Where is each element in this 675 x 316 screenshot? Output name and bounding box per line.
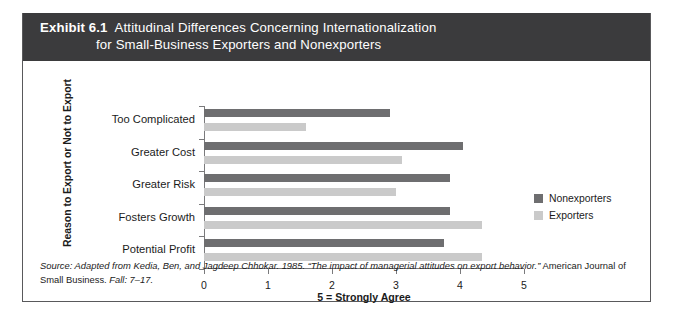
y-axis-title: Reason to Export or Not to Export <box>62 97 73 247</box>
y-axis-tick <box>199 204 204 205</box>
y-axis-tick <box>199 236 204 237</box>
exhibit-title-line-2: for Small-Business Exporters and Nonexpo… <box>40 37 650 54</box>
y-axis-tick <box>199 139 204 140</box>
bar-nonexporters <box>204 239 444 247</box>
plot-region: 0 1 2 3 4 5 Too Complicated Greater Cost… <box>204 106 524 269</box>
legend-item-nonexporters: Nonexporters <box>534 190 611 207</box>
legend-item-exporters: Exporters <box>534 207 611 224</box>
category-label: Greater Risk <box>75 178 195 190</box>
bar-exporters <box>204 221 482 229</box>
y-axis-tick <box>199 106 204 107</box>
exhibit-header: Exhibit 6.1Attitudinal Differences Conce… <box>23 13 650 61</box>
category-label: Too Complicated <box>75 113 195 125</box>
legend-swatch-icon <box>534 211 543 220</box>
bar-exporters <box>204 188 396 196</box>
source-note-italic: Source: Adapted from Kedia, Ben, and Jag… <box>40 260 540 271</box>
exhibit-title-line-1: Attitudinal Differences Concerning Inter… <box>115 20 437 35</box>
category-label: Potential Profit <box>75 243 195 255</box>
source-note: Source: Adapted from Kedia, Ben, and Jag… <box>40 259 640 287</box>
chart-legend: Nonexporters Exporters <box>534 190 611 224</box>
x-axis-title: 5 = Strongly Agree <box>204 291 524 303</box>
y-axis-tick <box>199 171 204 172</box>
chart-area: Reason to Export or Not to Export 0 1 2 … <box>23 61 650 257</box>
exhibit-panel: Exhibit 6.1Attitudinal Differences Conce… <box>22 13 651 302</box>
bar-nonexporters <box>204 142 463 150</box>
legend-label: Nonexporters <box>549 193 611 204</box>
exhibit-number: Exhibit 6.1 <box>40 20 108 35</box>
legend-swatch-icon <box>534 194 543 203</box>
bar-nonexporters <box>204 207 450 215</box>
exhibit-header-line-1: Exhibit 6.1Attitudinal Differences Conce… <box>40 20 650 37</box>
bar-nonexporters <box>204 109 390 117</box>
bar-exporters <box>204 123 306 131</box>
bar-nonexporters <box>204 174 450 182</box>
source-note-italic-tail: Fall: 7–17. <box>107 274 153 285</box>
category-label: Greater Cost <box>75 146 195 158</box>
category-label: Fosters Growth <box>75 211 195 223</box>
bar-exporters <box>204 156 402 164</box>
legend-label: Exporters <box>549 210 593 221</box>
